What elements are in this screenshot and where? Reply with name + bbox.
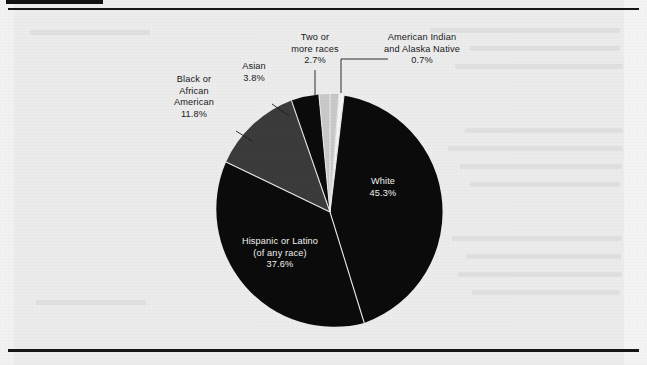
- pie-label-hispanic-percent: 37.6%: [215, 259, 345, 271]
- pie-label-american-indian-and-alaska-native: American Indian and Alaska Native 0.7%: [368, 32, 476, 67]
- pie-label-american-indian-line1: American Indian: [388, 32, 457, 42]
- pie-label-black-or-african-american: Black or African American 11.8%: [152, 74, 236, 120]
- pie-label-white-text: White: [371, 176, 395, 186]
- pie-chart: White 45.3% Hispanic or Latino (of any r…: [0, 10, 647, 348]
- pie-label-two-or-more-line2: more races: [272, 44, 358, 56]
- pie-label-hispanic-line2: (of any race): [215, 248, 345, 260]
- pie-label-white-percent: 45.3%: [348, 188, 418, 200]
- pie-label-black-percent: 11.8%: [152, 109, 236, 121]
- pie-label-american-indian-percent: 0.7%: [368, 55, 476, 67]
- pie-label-asian-text: Asian: [242, 61, 266, 71]
- pie-label-hispanic-or-latino: Hispanic or Latino (of any race) 37.6%: [215, 236, 345, 271]
- pie-label-american-indian-line2: and Alaska Native: [368, 44, 476, 56]
- pie-label-white: White 45.3%: [348, 176, 418, 199]
- page-corner-mark: [6, 0, 103, 4]
- pie-label-black-line2: African: [152, 86, 236, 98]
- pie-label-black-line1: Black or: [177, 74, 211, 84]
- footer-rule: [8, 349, 639, 352]
- pie-label-black-line3: American: [152, 97, 236, 109]
- pie-label-two-or-more-line1: Two or: [301, 32, 329, 42]
- pie-label-hispanic-line1: Hispanic or Latino: [242, 236, 318, 246]
- pie-label-two-or-more-percent: 2.7%: [272, 55, 358, 67]
- pie-label-two-or-more-races: Two or more races 2.7%: [272, 32, 358, 67]
- pie-label-asian-percent: 3.8%: [228, 73, 280, 85]
